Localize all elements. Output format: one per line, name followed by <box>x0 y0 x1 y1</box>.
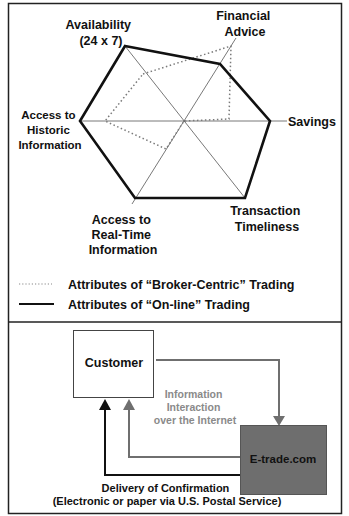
arrow-head-up-black-icon <box>99 399 111 410</box>
customer-label: Customer <box>85 356 143 370</box>
info-interaction-label: Information Interaction over the Interne… <box>154 388 237 426</box>
legend-online-label: Attributes of “On-line” Trading <box>68 298 250 312</box>
arrow-head-down-icon <box>273 416 285 426</box>
online-series <box>80 46 270 198</box>
arrow-head-up-gray-icon <box>123 399 135 410</box>
radar-spokes <box>80 38 287 204</box>
axis-label-transaction-timeliness: Transaction Timeliness <box>230 204 304 234</box>
axis-label-financial-advice: Financial Advice <box>216 9 274 39</box>
legend-broker-label: Attributes of “Broker-Centric” Trading <box>68 278 294 292</box>
axis-label-availability: Availability (24 x 7) <box>65 18 134 48</box>
axis-label-historic: Access to Historic Information <box>18 109 81 151</box>
axis-label-real-time: Access to Real-Time Information <box>89 213 158 257</box>
axis-label-savings: Savings <box>288 115 336 129</box>
etrade-label: E-trade.com <box>250 453 316 465</box>
